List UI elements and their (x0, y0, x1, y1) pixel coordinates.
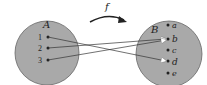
element-2: 2 (38, 44, 42, 53)
set-a-circle (15, 21, 79, 85)
dot-c (167, 49, 170, 52)
set-b-label: B (150, 24, 158, 35)
dot-a (167, 24, 170, 27)
dot-b (167, 38, 170, 41)
dot-e (167, 72, 170, 75)
element-a: a (172, 21, 177, 30)
set-b-circle (136, 21, 202, 85)
element-1: 1 (38, 33, 42, 42)
function-mapping-diagram: A 1 2 3 B a b c d e f (0, 0, 207, 85)
function-label: f (104, 1, 111, 12)
element-3: 3 (38, 56, 42, 65)
element-e: e (172, 69, 177, 78)
dot-d (167, 60, 170, 63)
element-b: b (172, 34, 178, 44)
element-d: d (172, 57, 178, 67)
set-a-label: A (42, 19, 50, 30)
element-c: c (172, 46, 177, 55)
function-arrowhead-icon (118, 16, 127, 23)
